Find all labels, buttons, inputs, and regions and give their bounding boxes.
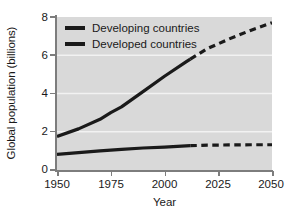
legend-item-developed[interactable]: Developed countries	[65, 37, 225, 51]
y-axis-line	[55, 15, 57, 172]
x-tick-label-2050: 2050	[249, 178, 293, 191]
y-tick-label-8: 8	[28, 11, 48, 23]
series-line-developed-projected	[190, 145, 272, 146]
x-tick-label-1950: 1950	[35, 178, 79, 191]
y-tick-label-4: 4	[28, 87, 48, 99]
y-tick-mark-2	[50, 131, 55, 133]
x-tick-mark-1975	[111, 171, 113, 176]
series-line-developed-historical	[57, 146, 190, 155]
x-tick-label-1975: 1975	[89, 178, 133, 191]
y-axis-title: Global population (billions)	[2, 8, 20, 178]
y-tick-mark-6	[50, 54, 55, 56]
y-tick-mark-8	[50, 16, 55, 18]
x-tick-mark-2000	[165, 171, 167, 176]
y-tick-label-2: 2	[28, 125, 48, 137]
x-tick-mark-2025	[218, 171, 220, 176]
x-tick-mark-1950	[57, 171, 59, 176]
population-line-chart: Global population (billions) Developing …	[0, 0, 294, 216]
x-tick-label-2000: 2000	[143, 178, 187, 191]
y-tick-mark-4	[50, 93, 55, 95]
gridlines	[57, 55, 272, 132]
legend-swatch-developed-icon	[65, 42, 85, 47]
legend-label-developed: Developed countries	[92, 38, 197, 51]
plot-area: Developing countries Developed countries	[57, 17, 272, 170]
y-tick-mark-0	[50, 169, 55, 171]
y-tick-label-0: 0	[28, 163, 48, 175]
x-axis-title: Year	[57, 196, 272, 209]
series-line-developing-historical	[57, 59, 190, 136]
y-tick-label-6: 6	[28, 49, 48, 61]
legend-label-developing: Developing countries	[92, 22, 199, 35]
x-tick-mark-2050	[272, 171, 274, 176]
x-tick-label-2025: 2025	[196, 178, 240, 191]
legend-item-developing[interactable]: Developing countries	[65, 21, 225, 35]
legend-swatch-developing-icon	[65, 26, 85, 31]
legend: Developing countries Developed countries	[65, 21, 225, 53]
